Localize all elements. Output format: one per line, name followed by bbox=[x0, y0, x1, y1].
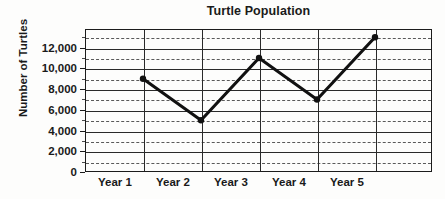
gridline-major bbox=[86, 69, 431, 70]
gridline-major bbox=[86, 132, 431, 133]
y-axis-tick-label: 10,000 bbox=[42, 62, 77, 74]
gridline-major bbox=[86, 152, 431, 153]
chart-screenshot: Turtle Population Number of Turtles 02,0… bbox=[0, 0, 445, 199]
y-axis-tick-minor bbox=[82, 58, 85, 59]
y-axis-tick-label: 6,000 bbox=[48, 104, 77, 116]
y-axis-tick-minor bbox=[82, 99, 85, 100]
y-axis-tick bbox=[80, 172, 85, 173]
gridline-vertical bbox=[202, 30, 203, 171]
gridline-minor bbox=[86, 100, 431, 101]
y-axis-tick bbox=[80, 48, 85, 49]
chart-title: Turtle Population bbox=[85, 4, 432, 18]
gridline-vertical bbox=[376, 30, 377, 171]
y-axis-tick bbox=[80, 89, 85, 90]
y-axis-tick-label: 0 bbox=[71, 166, 77, 178]
x-axis-tick-label: Year 2 bbox=[156, 176, 190, 188]
gridline-vertical bbox=[318, 30, 319, 171]
y-axis-tick bbox=[80, 131, 85, 132]
gridline-vertical bbox=[260, 30, 261, 171]
y-axis-tick bbox=[80, 151, 85, 152]
gridline-minor bbox=[86, 121, 431, 122]
gridline-major bbox=[86, 49, 431, 50]
y-axis-tick-minor bbox=[82, 162, 85, 163]
gridline-minor bbox=[86, 38, 431, 39]
y-axis-tick-minor bbox=[82, 37, 85, 38]
gridline-major bbox=[86, 111, 431, 112]
y-axis-tick bbox=[80, 68, 85, 69]
y-axis-tick-label: 2,000 bbox=[48, 145, 77, 157]
gridline-minor bbox=[86, 59, 431, 60]
gridline-minor bbox=[86, 163, 431, 164]
gridline-major bbox=[86, 90, 431, 91]
y-axis-tick bbox=[80, 110, 85, 111]
y-axis-tick-minor bbox=[82, 79, 85, 80]
gridline-minor bbox=[86, 80, 431, 81]
x-axis-tick-label: Year 3 bbox=[214, 176, 248, 188]
plot-area bbox=[85, 29, 432, 172]
x-axis-tick-label: Year 1 bbox=[98, 176, 132, 188]
x-axis-tick-label: Year 5 bbox=[330, 176, 364, 188]
y-axis-tick-label: 8,000 bbox=[48, 83, 77, 95]
y-axis-tick-minor bbox=[82, 141, 85, 142]
y-axis-tick-minor bbox=[82, 120, 85, 121]
y-axis-title: Number of Turtles bbox=[17, 3, 29, 133]
gridline-minor bbox=[86, 142, 431, 143]
y-axis-tick-label: 12,000 bbox=[42, 42, 77, 54]
x-axis-tick-label: Year 4 bbox=[272, 176, 306, 188]
gridline-vertical bbox=[144, 30, 145, 171]
y-axis-tick-label: 4,000 bbox=[48, 125, 77, 137]
